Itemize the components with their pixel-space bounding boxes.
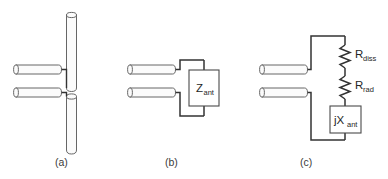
- caption-panel-a: (a): [55, 156, 68, 168]
- upper-feed-connection-wire: [62, 70, 67, 89]
- caption-panel-b: (b): [165, 156, 178, 168]
- panel-b-upper-feed-rod: [128, 65, 176, 74]
- lower-feed-rod-cap-icon: [14, 88, 19, 97]
- lower-feed-connection-wire: [62, 93, 67, 97]
- dissipation-resistor: [340, 45, 350, 68]
- lower-dipole-arm: [67, 94, 77, 154]
- upper-dipole-arm: [67, 12, 77, 91]
- upper-feed-rod: [14, 65, 62, 74]
- panel-b-group: Z ant: [128, 60, 219, 116]
- z-ant-label-main: Z: [196, 82, 203, 94]
- panel-c-upper-feed-rod: [260, 65, 308, 74]
- upper-arm-cap-icon: [67, 12, 77, 17]
- panel-b-lower-feed-rod: [128, 88, 176, 97]
- panel-c-lower-feed-rod: [260, 88, 308, 97]
- upper-feed-rod-cap-icon: [14, 65, 19, 74]
- panel-c-group: jX ant R diss R rad: [260, 36, 377, 140]
- caption-panel-c: (c): [300, 156, 312, 168]
- antenna-equivalent-circuit-figure: Z ant: [0, 0, 388, 179]
- panel-a-group: [14, 12, 77, 154]
- panel-c-lower-rod-cap-icon: [260, 88, 265, 97]
- jx-ant-label-main: jX: [333, 114, 345, 126]
- figure-canvas: Z ant: [0, 0, 388, 179]
- panel-b-upper-rod-cap-icon: [128, 65, 133, 74]
- r-rad-label-sub: rad: [363, 85, 374, 94]
- r-diss-label-sub: diss: [363, 54, 377, 63]
- panel-b-lower-rod-cap-icon: [128, 88, 133, 97]
- lower-arm-cap-icon: [67, 94, 77, 99]
- panel-b-top-wire: [176, 60, 205, 70]
- jx-ant-label-sub: ant: [347, 120, 358, 129]
- panel-c-upper-rod-cap-icon: [260, 65, 265, 74]
- z-ant-label-sub: ant: [204, 88, 215, 97]
- lower-feed-rod: [14, 88, 62, 97]
- radiation-resistor: [340, 76, 350, 99]
